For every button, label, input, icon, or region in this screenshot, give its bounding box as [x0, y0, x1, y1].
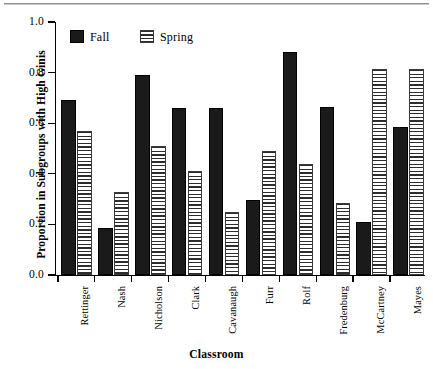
- legend-item-fall: Fall: [70, 30, 109, 43]
- legend-label-spring: Spring: [160, 31, 193, 43]
- bar-mccartney-spring: [372, 69, 387, 275]
- legend-swatch-fall-icon: [70, 30, 84, 43]
- bar-nicholson-fall: [135, 75, 150, 275]
- bar-rettinger-fall: [61, 100, 76, 275]
- bar-rettinger-spring: [77, 131, 92, 275]
- bar-nicholson-spring: [151, 146, 166, 275]
- bar-rolf-fall: [283, 52, 298, 275]
- bar-furr-fall: [246, 200, 261, 275]
- bar-mayes-spring: [409, 69, 424, 275]
- bar-cavanaugh-fall: [209, 108, 224, 275]
- legend-label-fall: Fall: [90, 31, 109, 43]
- bar-cavanaugh-spring: [225, 212, 240, 275]
- legend-swatch-spring-icon: [140, 30, 154, 43]
- plot-area: [0, 0, 433, 369]
- bar-clark-spring: [188, 171, 203, 275]
- bar-chart-figure: 0.00.20.40.60.81.0 Proportion in Subgrou…: [0, 0, 433, 369]
- bar-fredenburg-spring: [336, 203, 351, 275]
- bar-fredenburg-fall: [320, 107, 335, 275]
- bar-mayes-fall: [393, 127, 408, 275]
- bar-rolf-spring: [299, 164, 314, 275]
- bar-nash-fall: [98, 228, 113, 275]
- bar-nash-spring: [114, 192, 129, 275]
- legend-item-spring: Spring: [140, 30, 193, 43]
- bar-clark-fall: [172, 108, 187, 275]
- bar-mccartney-fall: [356, 222, 371, 275]
- bar-furr-spring: [262, 151, 277, 275]
